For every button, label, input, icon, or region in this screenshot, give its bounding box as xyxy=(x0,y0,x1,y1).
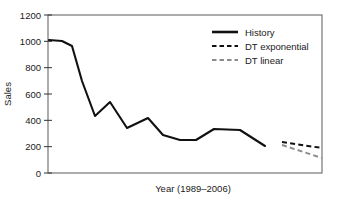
x-axis-title: Year (1989–2006) xyxy=(155,183,231,194)
y-tick-label-800: 800 xyxy=(25,62,41,73)
sales-history-line-chart: 1200 1000 800 600 400 200 0 Sales Year (… xyxy=(0,0,340,206)
y-axis-title: Sales xyxy=(2,82,13,106)
legend-label-dt-linear: DT linear xyxy=(245,55,283,66)
legend-label-history: History xyxy=(245,27,275,38)
y-tick-label-1000: 1000 xyxy=(20,36,41,47)
y-tick-label-1200: 1200 xyxy=(20,10,41,21)
y-tick-label-200: 200 xyxy=(25,141,41,152)
y-tick-label-0: 0 xyxy=(36,168,41,179)
y-tick-label-400: 400 xyxy=(25,115,41,126)
legend-label-dt-exponential: DT exponential xyxy=(245,41,309,52)
chart-container: 1200 1000 800 600 400 200 0 Sales Year (… xyxy=(0,0,340,206)
plot-frame xyxy=(48,15,322,173)
y-tick-label-600: 600 xyxy=(25,89,41,100)
